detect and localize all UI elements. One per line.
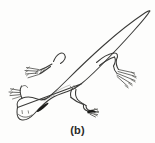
dorsal-fin-bump [54,53,66,63]
lower-hindlimb [71,86,99,118]
salamander-illustration [0,0,155,143]
figure-caption: (b) [0,124,155,137]
figure-panel: (b) [0,0,155,143]
head [19,111,33,118]
right-hindlimb [97,53,137,88]
left-forelimb [25,64,52,78]
eye [37,103,48,112]
